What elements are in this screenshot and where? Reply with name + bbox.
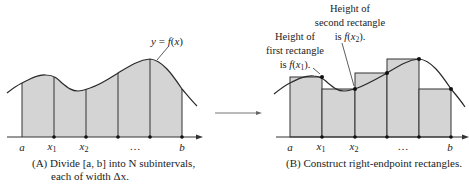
caption-b: (B) Construct right-endpoint rectangles. [286,157,462,170]
tick-label-x2: x2 [79,140,89,154]
tick-label-a-b: a [287,141,293,153]
caption-a-line1: (A) Divide [a, b] into N subintervals, [32,157,195,170]
svg-text:first rectangle: first rectangle [266,45,324,56]
x-axis-arrowhead [196,135,203,140]
rectangle-1 [290,77,322,137]
tick-label-b-b: b [447,141,453,153]
panel-b: a x1 x2 … b Height of first rectangle is… [266,3,469,170]
rectangle-2 [322,89,355,137]
tick-label-ellipsis: … [130,140,141,152]
tick-label-x1-b: x1 [316,140,326,154]
tick-label-a: a [19,141,25,153]
svg-text:is f(x2).: is f(x2). [335,31,366,44]
tick-label-x2-b: x2 [349,140,359,154]
transition-arrow [215,111,262,115]
tick-label-b: b [179,141,185,153]
curve-label: y = f(x) [150,35,183,48]
x-axis-arrowhead-b [462,135,469,140]
svg-text:second rectangle: second rectangle [315,17,386,28]
panel-a: a x1 x2 … b y = f(x) (A) Divide [a, b] i… [7,35,203,182]
annotation-first-rectangle: Height of first rectangle is f(x1). [266,31,324,74]
tick-label-ellipsis-b: … [398,140,409,152]
svg-text:is f(x1).: is f(x1). [280,59,311,72]
rectangle-3 [355,73,387,137]
curve-label-leader [157,47,168,60]
caption-a-line2: each of width Δx. [51,170,129,182]
svg-text:Height of: Height of [275,31,315,42]
svg-text:Height of: Height of [330,3,370,14]
riemann-sum-diagram: a x1 x2 … b y = f(x) (A) Divide [a, b] i… [0,0,469,190]
rectangle-5 [419,89,451,137]
tick-label-x1: x1 [47,140,57,154]
area-under-curve [22,59,182,137]
right-endpoint-rectangles [290,59,451,137]
